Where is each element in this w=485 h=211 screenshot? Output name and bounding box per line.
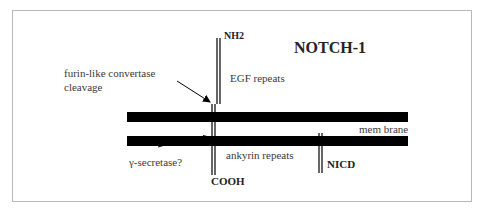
egf-repeats-label: EGF repeats — [230, 73, 285, 84]
nh2-label: NH2 — [224, 31, 244, 41]
membrane-outer-band — [127, 112, 408, 122]
membrane-label: mem brane — [359, 124, 408, 135]
receptor-extracellular-segment — [217, 38, 220, 104]
furin-label-line2: cleavage — [64, 82, 102, 93]
diagram-title: NOTCH-1 — [294, 40, 366, 56]
furin-cleavage-arrow — [177, 81, 210, 102]
ankyrin-repeats-label: ankyrin repeats — [226, 150, 294, 161]
membrane-inner-band — [127, 136, 408, 146]
gamma-secretase-label: γ-secretase? — [129, 157, 182, 168]
cooh-label: COOH — [211, 176, 245, 187]
nicd-label: NICD — [327, 159, 355, 170]
furin-label-line1: furin-like convertase — [64, 68, 155, 79]
